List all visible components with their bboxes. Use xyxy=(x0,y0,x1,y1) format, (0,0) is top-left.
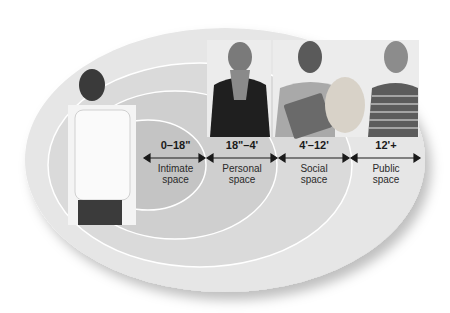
zone-public: 12'+ xyxy=(353,139,419,151)
distance-personal: 18"–4' xyxy=(209,139,275,151)
zone-personal: 18"–4' xyxy=(209,139,275,151)
zone-ellipses xyxy=(0,0,450,313)
zone-social-label: Social space xyxy=(281,163,347,185)
zone-personal-label: Personal space xyxy=(209,163,275,185)
distance-intimate: 0–18" xyxy=(146,139,205,151)
zone-intimate: 0–18" xyxy=(146,139,205,151)
distance-social: 4'–12' xyxy=(281,139,347,151)
zone-social: 4'–12' xyxy=(281,139,347,151)
distance-public: 12'+ xyxy=(353,139,419,151)
zone-public-label: Public space xyxy=(353,163,419,185)
zone-intimate-label: Intimate space xyxy=(146,163,205,185)
person-woman-dark-coat xyxy=(207,40,271,137)
proxemics-diagram: 0–18" Intimate space 18"–4' Personal spa… xyxy=(0,0,450,313)
person-woman-striped-sweater xyxy=(325,40,419,137)
